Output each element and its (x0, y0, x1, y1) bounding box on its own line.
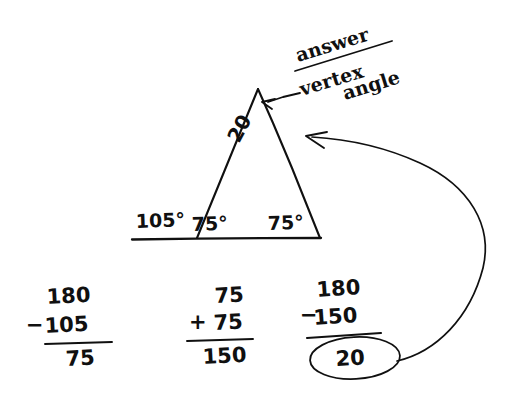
calc3-top-number: 180 (316, 275, 361, 302)
calculation-sum-of-base-angles: 75 + 75 150 (187, 282, 253, 368)
calc2-result: 150 (202, 343, 247, 369)
calculation-vertex-angle: 180 − 150 20 (300, 275, 401, 381)
triangle-baseline (132, 238, 321, 240)
vertex-angle-label: 20 (222, 110, 256, 146)
calc1-top-number: 180 (46, 283, 91, 309)
calculation-supplementary-angle: 180 − 105 75 (26, 283, 112, 371)
exterior-angle-label: 105° (135, 208, 185, 232)
base-left-angle-label: 75° (191, 212, 228, 235)
calc1-bottom-number: 105 (44, 312, 89, 338)
answer-callout-arrowhead (306, 132, 327, 148)
calc1-result: 75 (65, 345, 95, 370)
calc2-top-number: 75 (214, 282, 244, 307)
calc2-bar (187, 339, 253, 341)
calc3-result: 20 (335, 345, 365, 370)
calc2-bottom-number: 75 (213, 309, 243, 334)
vertex-angle-pointer-arrow (262, 93, 300, 109)
calc2-operator: + (189, 310, 207, 334)
handwritten-worksheet: 105° 75° 75° 20 answer vertex angle 180 … (0, 0, 506, 399)
calc1-operator: − (26, 313, 44, 337)
calc1-bar (45, 342, 112, 344)
base-right-angle-label: 75° (267, 211, 304, 234)
calc3-bottom-number: 150 (313, 303, 358, 330)
